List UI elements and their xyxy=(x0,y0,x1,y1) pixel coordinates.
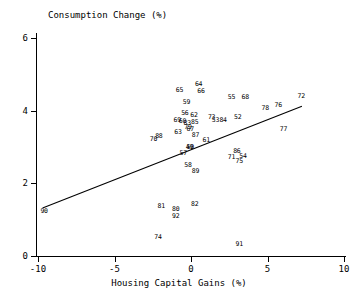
y-tick-mark xyxy=(31,111,36,112)
data-point-label: 89 xyxy=(192,168,199,175)
x-tick-label: 10 xyxy=(329,264,358,274)
x-axis-label: Housing Capital Gains (%) xyxy=(0,278,358,288)
data-point-label: 58 xyxy=(184,162,191,169)
data-point-label: 87 xyxy=(192,132,199,139)
data-point-label: 84 xyxy=(219,117,226,124)
x-tick-mark xyxy=(344,257,345,262)
data-point-label: 90 xyxy=(40,208,47,215)
data-point-label: 61 xyxy=(203,137,210,144)
y-tick-label: 4 xyxy=(6,106,28,116)
x-tick-mark xyxy=(191,257,192,262)
data-point-label: 77 xyxy=(280,126,287,133)
data-point-label: 91 xyxy=(235,241,242,248)
data-point-label: 55 xyxy=(228,94,235,101)
data-point-label: 72 xyxy=(297,93,304,100)
x-tick-mark xyxy=(268,257,269,262)
x-tick-mark xyxy=(38,257,39,262)
y-axis-line xyxy=(36,33,37,257)
data-point-label: 63 xyxy=(174,129,181,136)
data-point-label: 92 xyxy=(172,213,179,220)
chart-title: Consumption Change (%) xyxy=(48,10,167,20)
y-tick-mark xyxy=(31,183,36,184)
x-tick-mark xyxy=(115,257,116,262)
data-point-label: 88 xyxy=(155,133,162,140)
y-tick-label: 6 xyxy=(6,33,28,43)
data-point-label: 56 xyxy=(181,110,188,117)
data-point-label: 50 xyxy=(187,144,194,151)
scatter-chart: Consumption Change (%) 0246 -10-50510 64… xyxy=(0,0,358,301)
x-tick-label: 5 xyxy=(253,264,283,274)
data-point-label: 81 xyxy=(157,203,164,210)
x-tick-label: 0 xyxy=(176,264,206,274)
y-tick-label: 0 xyxy=(6,251,28,261)
data-point-label: 59 xyxy=(183,99,190,106)
y-tick-mark xyxy=(31,256,36,257)
y-tick-mark xyxy=(31,38,36,39)
data-point-label: 78 xyxy=(261,105,268,112)
data-point-label: 74 xyxy=(154,234,161,241)
data-point-label: 71 xyxy=(228,154,235,161)
data-point-label: 65 xyxy=(176,87,183,94)
data-point-label: 68 xyxy=(242,94,249,101)
data-point-label: 82 xyxy=(191,201,198,208)
y-tick-label: 2 xyxy=(6,178,28,188)
x-tick-label: -5 xyxy=(100,264,130,274)
x-tick-label: -10 xyxy=(23,264,53,274)
data-point-label: 52 xyxy=(234,114,241,121)
data-point-label: 76 xyxy=(274,102,281,109)
data-point-label: 66 xyxy=(197,88,204,95)
data-point-label: 57 xyxy=(180,150,187,157)
data-point-label: 75 xyxy=(235,158,242,165)
data-point-label: 53 xyxy=(212,117,219,124)
